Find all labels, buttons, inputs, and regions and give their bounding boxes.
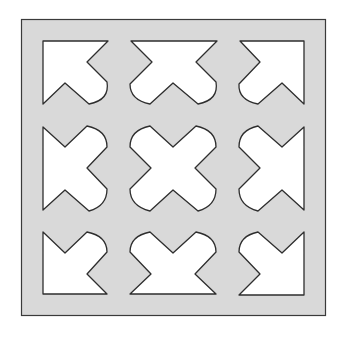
cross-cutout-panel-diagram — [0, 0, 347, 337]
